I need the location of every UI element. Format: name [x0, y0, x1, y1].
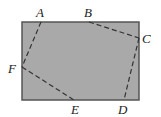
label-b: B [84, 5, 92, 20]
label-c: C [142, 31, 151, 46]
label-a: A [35, 5, 44, 20]
label-e: E [70, 102, 79, 117]
geometry-diagram: A B C D E F [0, 0, 161, 117]
rectangle [22, 22, 139, 100]
label-d: D [117, 102, 128, 117]
label-f: F [7, 61, 17, 76]
